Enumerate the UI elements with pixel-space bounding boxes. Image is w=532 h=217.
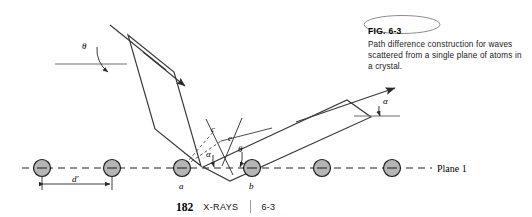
page-number: 182 <box>176 201 193 213</box>
incident-beam: θ <box>55 25 201 166</box>
plane-1-label: Plane 1 <box>437 163 467 174</box>
scattered-beam: α <box>203 88 400 181</box>
point-a-label: a <box>179 181 184 191</box>
figure-caption-text: Path difference construction for waves s… <box>368 39 528 73</box>
plane-theta-label: θ <box>238 144 243 154</box>
footer-divider <box>250 200 251 213</box>
atom-a <box>174 160 191 177</box>
atom <box>314 160 331 177</box>
section-number: 6-3 <box>262 202 276 212</box>
point-c-label: c <box>211 124 215 134</box>
atom <box>384 160 401 177</box>
spacing-label: d' <box>72 174 80 184</box>
point-e-label: e <box>228 133 232 143</box>
point-b-label: b <box>249 181 254 191</box>
spacing-dimension: d' <box>42 174 112 190</box>
atom <box>34 160 51 177</box>
page-footer: 182 X-RAYS 6-3 <box>0 196 532 217</box>
chapter-title: X-RAYS <box>203 202 238 212</box>
figure-container: θ α c e <box>0 0 532 217</box>
figure-number-label: FIG. 6-3 <box>368 26 528 37</box>
scattered-alpha-label: α <box>383 96 388 106</box>
figure-caption-block: FIG. 6-3 Path difference construction fo… <box>368 26 528 73</box>
incident-theta-label: θ <box>82 41 87 51</box>
atom-b <box>244 160 261 177</box>
plane-alpha-label: α <box>206 149 211 159</box>
atom <box>104 160 121 177</box>
